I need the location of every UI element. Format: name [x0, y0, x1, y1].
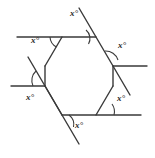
angle-label-right: x° [118, 41, 126, 50]
angle-label-bottom-right: x° [117, 94, 125, 103]
angle-label-left: x° [26, 93, 34, 102]
angle-arc-top-left [50, 37, 57, 47]
geometry-figure: x° x° x° x° x° x° [0, 0, 155, 158]
geometry-diagram-svg [0, 0, 155, 158]
hexagon-side-lower-left [45, 86, 62, 115]
angle-arc-left [32, 71, 36, 86]
line-upper-right-edge-extended-up [79, 8, 130, 95]
angle-arc-bottom [69, 115, 74, 127]
angle-arc-bottom-right [112, 104, 114, 115]
angle-label-top: x° [70, 9, 78, 18]
hexagon-side-upper-left [45, 37, 62, 66]
angle-label-top-left: x° [31, 36, 39, 45]
hexagon-side-lower-right [96, 86, 113, 115]
angle-label-bottom: x° [75, 121, 83, 130]
